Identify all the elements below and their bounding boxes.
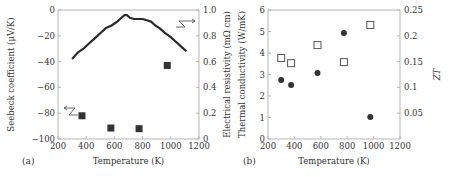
zt-point	[278, 54, 285, 61]
y-tick-label: −20	[37, 31, 55, 41]
x-tick-label: 800	[339, 141, 355, 151]
y-tick-label: −80	[37, 108, 55, 118]
x-axis-title: Temperature (K)	[298, 156, 369, 166]
panel-a-seebeck-resistivity: 200400600800100012000−20−40−60−80−1001.0…	[6, 5, 232, 166]
panel-label: (b)	[243, 156, 256, 166]
y-tick-label: 4	[260, 48, 265, 58]
resistivity-point	[136, 125, 143, 132]
panel-b-thermal-conductivity-zt: 2004006008001000120001234560.250.20.150.…	[237, 5, 442, 166]
y2-tick-label: 0.1	[404, 82, 418, 92]
y-tick-label: 0	[50, 5, 55, 15]
y-tick-label: 1	[260, 113, 265, 123]
panel-label: (a)	[22, 156, 34, 166]
thermal-conductivity-point	[315, 70, 321, 76]
y2-tick-label: 0.25	[404, 5, 423, 15]
y-tick-label: −40	[37, 57, 55, 67]
y2-tick-label: 1.0	[203, 5, 217, 15]
y2-tick-label: 0.2	[203, 108, 217, 118]
figure: 200400600800100012000−20−40−60−80−1001.0…	[0, 0, 452, 177]
thermal-conductivity-point	[341, 30, 347, 36]
y-tick-label: 5	[260, 27, 265, 37]
arrow-right-icon	[176, 19, 195, 27]
thermal-conductivity-point	[278, 77, 284, 83]
y-tick-label: −100	[32, 134, 55, 144]
y-tick-label: 6	[260, 5, 265, 15]
y-axis-title: Thermal conductivity (W/mK)	[237, 11, 247, 138]
resistivity-point	[107, 125, 114, 132]
y2-tick-label: 0	[203, 134, 208, 144]
resistivity-point	[164, 62, 171, 69]
thermal-conductivity-point	[288, 82, 294, 88]
x-tick-label: 1000	[160, 141, 182, 151]
y2-tick-label: 0.15	[404, 57, 423, 67]
x-tick-label: 400	[78, 141, 94, 151]
x-tick-label: 600	[106, 141, 122, 151]
x-axis-title: Temperature (K)	[93, 156, 164, 166]
y2-tick-label: 0.05	[404, 108, 423, 118]
arrow-left-icon	[64, 106, 78, 115]
resistivity-point	[78, 112, 85, 119]
zt-point	[340, 59, 347, 66]
y-axis-title: Seebeck coefficient (μV/K)	[6, 17, 16, 131]
x-tick-label: 800	[134, 141, 150, 151]
y-tick-label: −60	[37, 82, 55, 92]
y2-tick-label: 0.2	[404, 31, 418, 41]
zt-point	[288, 60, 295, 67]
y2-tick-label: 0.4	[203, 82, 217, 92]
y2-axis-title: ZT	[432, 67, 442, 81]
y2-tick-label: 0.6	[203, 57, 217, 67]
y-tick-label: 0	[260, 134, 265, 144]
x-tick-label: 1200	[389, 141, 411, 151]
y2-axis-title: Electrical resistivity (mΩ cm)	[222, 11, 232, 138]
zt-point	[314, 42, 321, 49]
seebeck-line	[72, 15, 186, 59]
y-tick-label: 3	[260, 70, 265, 80]
y2-tick-label: 0.8	[203, 31, 217, 41]
x-tick-label: 1000	[363, 141, 385, 151]
x-tick-label: 600	[313, 141, 329, 151]
thermal-conductivity-point	[367, 114, 373, 120]
x-tick-label: 400	[286, 141, 302, 151]
y-tick-label: 2	[260, 91, 265, 101]
zt-point	[367, 21, 374, 28]
